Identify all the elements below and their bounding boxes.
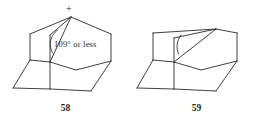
bond-left-to-bottom-left xyxy=(13,60,30,88)
caption-59: 59 xyxy=(131,103,262,113)
bond-left-to-bottom-left xyxy=(137,60,153,88)
figure-59: + 90° 59 xyxy=(131,0,262,124)
bond-center-front-to-right xyxy=(174,61,237,70)
bond-center-front-to-right xyxy=(50,61,111,70)
structure-59-drawing xyxy=(131,0,262,104)
figure-58: + 109° or less 58 xyxy=(0,0,131,124)
charge-plus-58: + xyxy=(66,4,72,14)
bond-bottom-center-to-bottom-right xyxy=(174,89,216,91)
angle-arc-59 xyxy=(177,35,181,54)
bond-bottom-center-to-bottom-right xyxy=(50,89,91,91)
bond-apex-to-upper-right xyxy=(71,17,111,34)
bond-apex-to-top-right xyxy=(216,29,237,33)
caption-58: 58 xyxy=(0,103,131,113)
bond-apex-to-front-mid xyxy=(50,17,71,35)
bond-left-to-center-front xyxy=(30,60,50,62)
bond-left-to-center-front xyxy=(153,60,174,62)
angle-label-58: 109° or less xyxy=(54,39,97,49)
bond-bottom-left-to-bottom-center xyxy=(13,88,50,89)
structure-58-drawing xyxy=(0,0,131,104)
bond-apex-to-upper-left xyxy=(30,17,71,34)
bond-bottom-left-to-bottom-center xyxy=(137,88,174,89)
